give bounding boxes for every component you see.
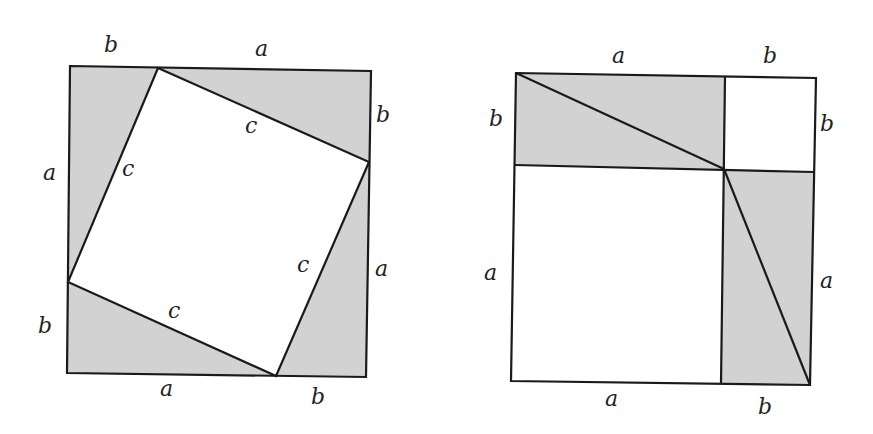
right-label-right-a: a: [820, 268, 833, 293]
left-label-hyp-right-c: c: [297, 252, 309, 277]
left-label-bottom-a: a: [160, 376, 173, 401]
right-label-right-b: b: [820, 111, 834, 136]
right-label-bottom-b: b: [758, 394, 772, 419]
left-label-top-a: a: [255, 36, 268, 61]
right-label-top-a: a: [612, 43, 625, 68]
left-label-top-b: b: [104, 32, 118, 57]
left-label-bottom-b: b: [311, 384, 325, 409]
pythagorean-proof-diagram: b a b a a b a b c c c c a b b a b a a b: [0, 0, 873, 434]
left-square: b a b a a b a b c c c c: [38, 32, 390, 409]
left-label-left-a: a: [43, 160, 56, 185]
left-label-left-b: b: [38, 313, 52, 338]
left-label-hyp-bottom-c: c: [168, 298, 180, 323]
left-label-hyp-left-c: c: [122, 156, 134, 181]
right-label-left-b: b: [489, 106, 503, 131]
right-label-left-a: a: [484, 260, 497, 285]
left-label-right-a: a: [375, 256, 388, 281]
right-label-bottom-a: a: [605, 386, 618, 411]
left-label-hyp-top-c: c: [245, 113, 257, 138]
left-label-right-b: b: [376, 102, 390, 127]
right-label-top-b: b: [763, 43, 777, 68]
right-square: a b b a b a a b: [484, 43, 834, 419]
